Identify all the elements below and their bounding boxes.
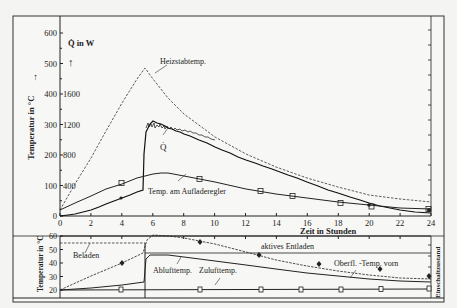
y-tick-100: 100 (44, 181, 57, 191)
x-tick-22: 22 (396, 218, 405, 228)
q-tick-1200: 1200 (63, 120, 80, 130)
x-tick-6: 6 (151, 218, 155, 228)
x-tick-14: 14 (272, 218, 281, 228)
x-tick-8: 8 (182, 218, 186, 228)
q-axis-label: Q̇ in W (68, 38, 95, 48)
lower-y-tick-30: 30 (49, 273, 57, 282)
annotation-oberfl-temp: Oberfl. -Temp. vorn (334, 259, 398, 268)
q-tick-1600: 1600 (63, 89, 80, 99)
x-axis-label: Zeit in Stunden (300, 226, 356, 236)
x-tick-24: 24 (427, 218, 436, 228)
upper-y-label: Temperatur in °C (26, 96, 36, 160)
annotation-aktives-entladen: aktives Entladen (261, 242, 314, 251)
annotation-ablufttemp: Ablufttemp. (153, 266, 192, 275)
annotation-zulufttemp: Zulufttemp. (199, 266, 237, 275)
lower-y-tick-20: 20 (49, 286, 57, 295)
q-axis-arrow: ↑ (68, 56, 74, 68)
q-tick-800: 800 (63, 150, 76, 160)
upper-y-arrow: → (29, 73, 39, 82)
y-tick-0: 0 (53, 211, 57, 221)
y-tick-600: 600 (44, 28, 57, 38)
annotation-aufladeregler: Temp. am Aufladeregler (148, 187, 226, 196)
annotation-q: Q̇ (160, 142, 167, 152)
x-tick-0: 0 (58, 218, 62, 228)
annotation-heizstabtemp: Heizstabtemp. (160, 57, 206, 66)
y-tick-300: 300 (44, 120, 57, 130)
lower-y-label: Temperatur in °C (36, 235, 45, 292)
x-tick-10: 10 (210, 218, 219, 228)
einschaltzustand-label: Einschaltzustand (434, 247, 442, 298)
lower-y-tick-40: 40 (49, 259, 57, 268)
lower-y-tick-60: 60 (49, 232, 57, 241)
y-tick-500: 500 (44, 59, 57, 69)
x-tick-20: 20 (365, 218, 374, 228)
x-tick-12: 12 (241, 218, 250, 228)
x-tick-4: 4 (120, 218, 125, 228)
y-tick-400: 400 (44, 89, 57, 99)
lower-y-tick-50: 50 (49, 246, 57, 255)
y-tick-200: 200 (44, 150, 57, 160)
annotation-beladen: Beladen (73, 251, 99, 260)
figure: 0 100 200 300 400 500 600 400 800 1200 1… (0, 0, 457, 308)
x-tick-2: 2 (89, 218, 93, 228)
